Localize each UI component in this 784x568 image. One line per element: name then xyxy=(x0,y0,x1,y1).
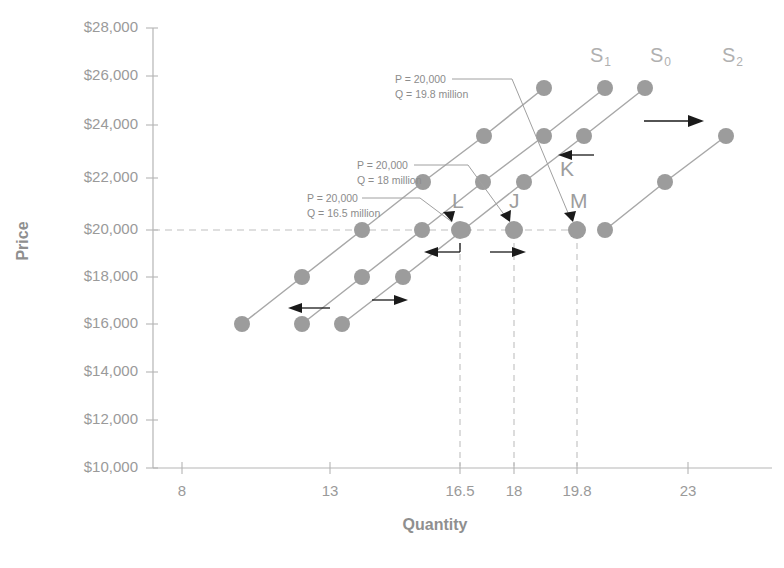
arrowhead-right-top xyxy=(688,115,704,127)
y-tick-label-20000: $20,000 xyxy=(46,220,138,237)
callout-annotation-bottom: P = 20,000 Q = 16.5 million xyxy=(307,191,380,221)
supply-curve-extra-points xyxy=(580,128,734,238)
supply-curve-s1 xyxy=(234,80,552,332)
data-point xyxy=(354,269,370,285)
data-point xyxy=(294,316,310,332)
x-axis-title: Quantity xyxy=(375,516,495,534)
callout-annotation-top: P = 20,000 Q = 19.8 million xyxy=(395,72,468,102)
data-point xyxy=(294,269,310,285)
supply-curve-chart: $28,000 $26,000 $24,000 $22,000 $20,000 … xyxy=(0,0,784,568)
callout-middle-line2: Q = 18 million xyxy=(357,173,422,188)
y-axis-title: Price xyxy=(14,206,32,276)
arrowhead-right-upper xyxy=(512,247,526,257)
y-tick-label-22000: $22,000 xyxy=(46,168,138,185)
curve-label-s2-sub: 2 xyxy=(736,55,743,69)
data-point xyxy=(395,269,411,285)
data-point xyxy=(536,80,552,96)
callout-bottom-line2: Q = 16.5 million xyxy=(307,206,380,221)
curve-label-s0-text: S xyxy=(650,44,663,66)
x-tick-label-16-5: 16.5 xyxy=(430,482,490,499)
data-point xyxy=(597,222,613,238)
data-point xyxy=(576,128,592,144)
data-point xyxy=(354,222,370,238)
x-tick-label-8: 8 xyxy=(152,482,212,499)
data-point xyxy=(414,222,430,238)
curve-label-s0: S0 xyxy=(650,44,670,67)
curve-label-s1: S1 xyxy=(590,44,610,67)
x-tick-label-18: 18 xyxy=(484,482,544,499)
curve-label-s1-text: S xyxy=(590,44,603,66)
curve-label-s2: S2 xyxy=(722,44,742,67)
point-label-j: J xyxy=(509,189,520,213)
callout-middle-line1: P = 20,000 xyxy=(357,158,422,173)
curve-line-extension-ghost xyxy=(580,136,700,230)
data-point xyxy=(718,128,734,144)
data-point xyxy=(597,80,613,96)
point-label-k: K xyxy=(560,157,574,181)
data-point xyxy=(475,174,491,190)
callout-top-line1: P = 20,000 xyxy=(395,72,468,87)
y-tick-label-10000: $10,000 xyxy=(46,458,138,475)
point-label-m: M xyxy=(570,189,588,213)
curve-label-s2-text: S xyxy=(722,44,735,66)
data-point xyxy=(234,316,250,332)
y-tick-label-26000: $26,000 xyxy=(46,66,138,83)
y-tick-label-18000: $18,000 xyxy=(46,267,138,284)
curve-label-s1-sub: 1 xyxy=(604,55,611,69)
arrowhead-left-lower xyxy=(288,303,302,313)
arrowhead-right-lower xyxy=(394,295,408,305)
supply-curve-s2 xyxy=(334,80,653,332)
data-point xyxy=(516,174,532,190)
curve-line-s2 xyxy=(342,88,645,324)
y-tick-label-12000: $12,000 xyxy=(46,410,138,427)
y-tick-label-14000: $14,000 xyxy=(46,362,138,379)
y-tick-label-28000: $28,000 xyxy=(46,18,138,35)
point-marker-j xyxy=(505,221,523,239)
callout-bottom-line1: P = 20,000 xyxy=(307,191,380,206)
data-point xyxy=(476,128,492,144)
y-tick-label-24000: $24,000 xyxy=(46,115,138,132)
y-tick-label-16000: $16,000 xyxy=(46,314,138,331)
curve-line-s1 xyxy=(242,88,544,324)
data-point xyxy=(657,174,673,190)
curve-label-s0-sub: 0 xyxy=(664,55,671,69)
x-tick-label-19-8: 19.8 xyxy=(547,482,607,499)
data-point xyxy=(334,316,350,332)
point-label-l: L xyxy=(452,189,464,213)
y-axis-ticks xyxy=(146,28,158,468)
callout-annotation-middle: P = 20,000 Q = 18 million xyxy=(357,158,422,188)
x-tick-label-13: 13 xyxy=(300,482,360,499)
point-marker-l xyxy=(451,221,469,239)
reference-lines xyxy=(153,230,580,466)
callout-top-line2: Q = 19.8 million xyxy=(395,87,468,102)
x-tick-label-23: 23 xyxy=(658,482,718,499)
point-marker-m xyxy=(568,221,586,239)
data-point xyxy=(637,80,653,96)
